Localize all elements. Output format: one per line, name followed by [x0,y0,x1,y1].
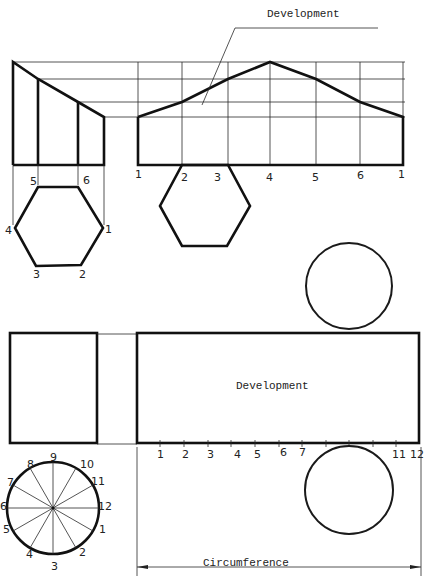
dev-label-6: 6 [357,169,364,182]
hex-label-3: 3 [33,268,40,281]
cyl-dev-label-7: 7 [299,446,306,459]
hexagonal-prism-figure: 5 6 1 4 3 2 1 2 3 4 5 6 1 [5,8,405,281]
prism-development-hexagon-base [160,165,250,246]
dev-label-3: 3 [214,171,221,184]
prism-front-view [13,62,104,225]
prism-development: 1 2 3 4 5 6 1 [135,62,405,184]
development-baseline-labels: 1 2 3 4 5 6 7 11 12 [157,446,424,461]
circle-label-12: 12 [98,500,112,513]
circle-label-7: 7 [7,476,14,489]
cyl-dev-label-3: 3 [207,448,214,461]
development-label-bottom: Development [236,380,309,392]
technical-drawing: 5 6 1 4 3 2 1 2 3 4 5 6 1 [0,0,444,583]
cyl-dev-label-5: 5 [254,448,261,461]
cylinder-figure: Development 1 2 3 4 5 6 7 11 12 [0,243,424,576]
cyl-dev-label-2: 2 [182,448,189,461]
cylinder-bottom-circle [305,446,393,534]
circumference-dimension: Circumference [137,447,421,576]
dev-label-2: 2 [181,171,188,184]
cyl-dev-label-4: 4 [234,448,241,461]
cylinder-front-view [10,333,97,443]
hex-label-1: 1 [105,223,112,236]
cyl-dev-label-11: 11 [392,448,406,461]
cyl-dev-label-12: 12 [410,448,424,461]
circle-label-3: 3 [51,560,58,573]
cyl-dev-label-1: 1 [157,448,164,461]
hex-label-2: 2 [79,268,86,281]
circle-label-6: 6 [0,500,7,513]
dev-label-1b: 1 [398,168,405,181]
development-label-top: Development [267,8,340,20]
circumference-label: Circumference [203,557,289,569]
hex-label-4: 4 [5,224,12,237]
circle-label-9: 9 [50,451,57,464]
circle-label-8: 8 [27,458,34,471]
circle-label-11: 11 [91,475,105,488]
dev-label-1a: 1 [135,168,142,181]
circle-label-1: 1 [99,523,106,536]
cylinder-top-circle [306,243,392,329]
circle-label-10: 10 [80,458,94,471]
cylinder-top-view-divided-circle: 9 8 10 7 11 6 12 5 1 4 2 3 [0,451,112,573]
prism-top-view-hexagon: 5 6 1 4 3 2 [5,174,112,281]
circle-label-2: 2 [79,546,86,559]
circle-label-5: 5 [3,523,10,536]
dev-label-5: 5 [312,171,319,184]
hex-label-5: 5 [30,175,37,188]
circle-label-4: 4 [26,548,33,561]
hex-label-6: 6 [83,174,90,187]
cyl-dev-label-6: 6 [280,446,287,459]
dev-label-4: 4 [266,171,273,184]
